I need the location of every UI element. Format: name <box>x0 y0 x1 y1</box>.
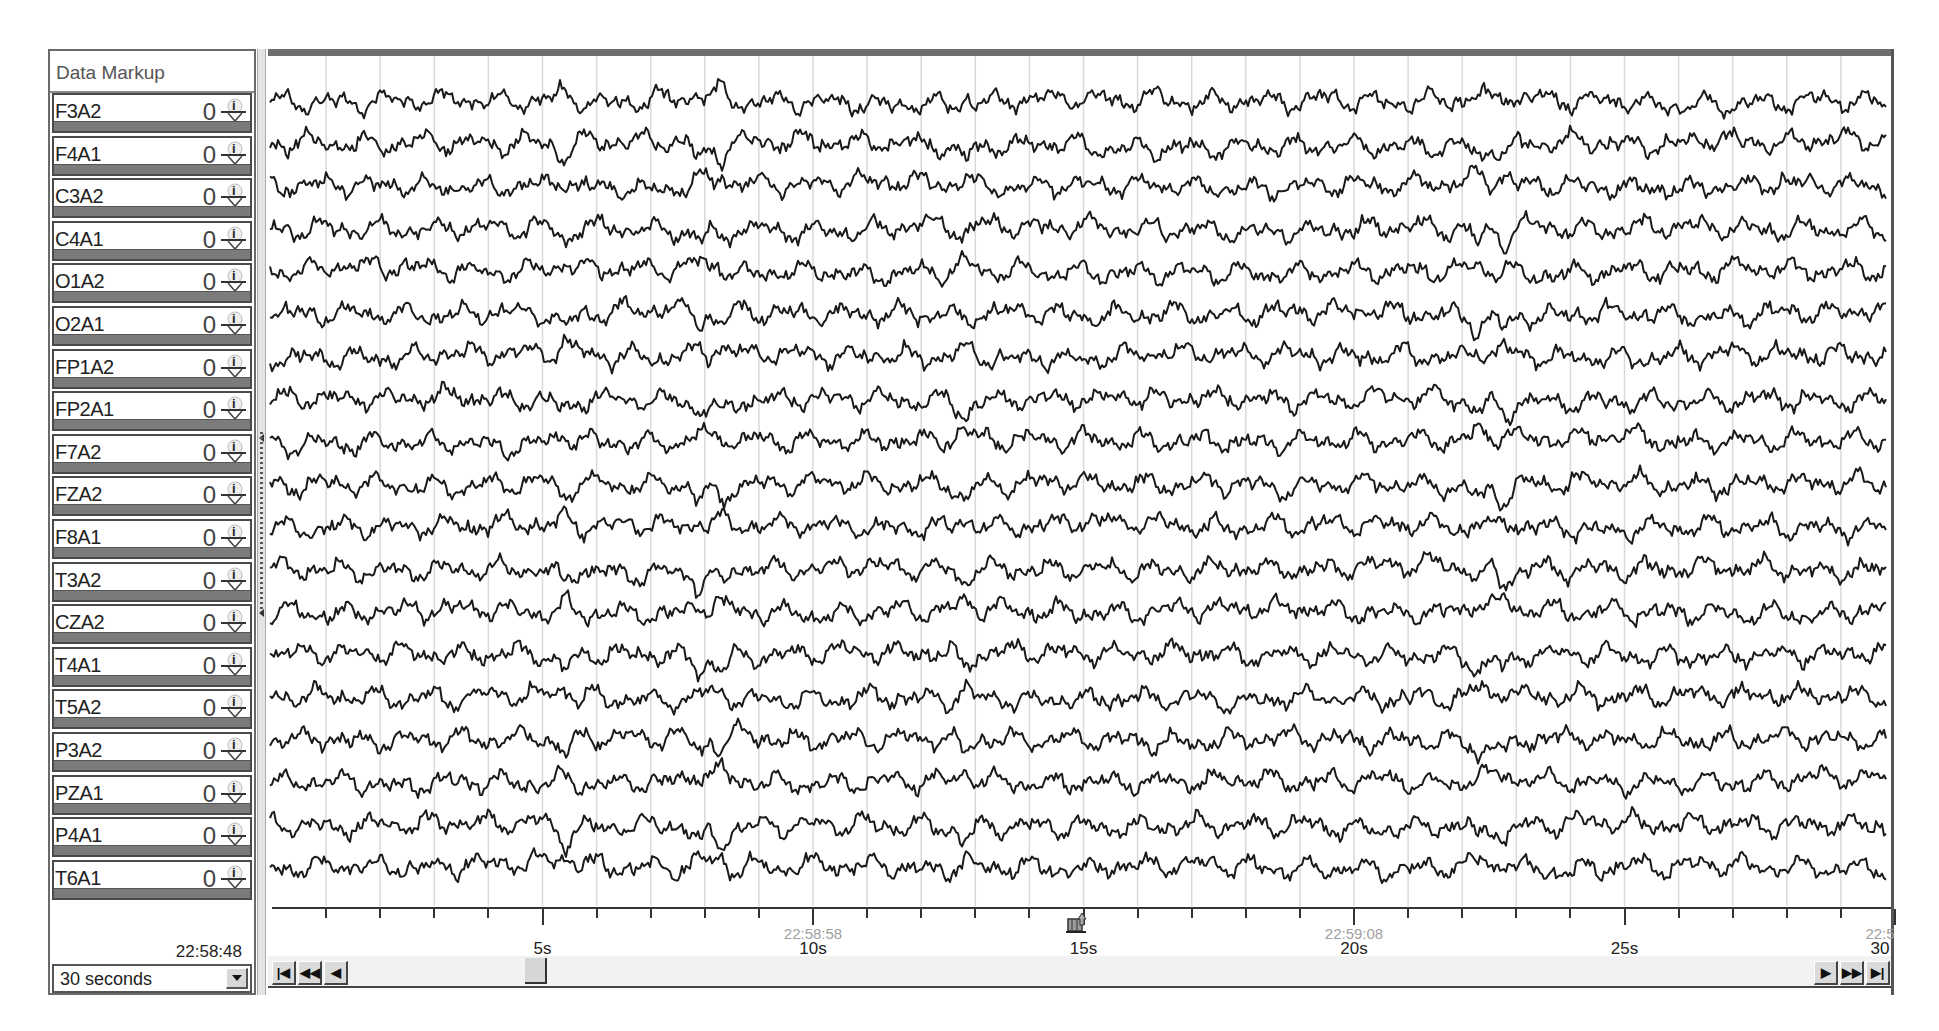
channel-row[interactable]: P4A10i <box>52 817 252 857</box>
channel-row[interactable]: F4A10i <box>52 136 252 176</box>
eeg-trace-fza2 <box>270 465 1886 510</box>
axis-tick <box>1137 909 1139 918</box>
info-marker-icon[interactable]: i <box>218 225 248 251</box>
axis-tick <box>704 909 706 918</box>
channel-row[interactable]: T3A20i <box>52 562 252 602</box>
channel-level-bar <box>54 334 250 344</box>
channel-row[interactable]: C3A20i <box>52 178 252 218</box>
info-marker-icon[interactable]: i <box>218 395 248 421</box>
eeg-trace-f7a2 <box>270 423 1886 461</box>
svg-text:i: i <box>232 567 236 582</box>
axis-tick <box>1245 909 1247 918</box>
axis-tick <box>487 909 489 918</box>
eeg-trace-f8a1 <box>270 506 1886 545</box>
nav-page-forward-button[interactable]: ▶▶ <box>1840 961 1864 985</box>
info-marker-icon[interactable]: i <box>218 140 248 166</box>
channel-row[interactable]: T4A10i <box>52 647 252 687</box>
scrollbar-thumb[interactable] <box>525 958 547 984</box>
axis-tick <box>1732 909 1734 918</box>
channel-row[interactable]: F7A20i <box>52 434 252 474</box>
channel-row[interactable]: F3A20i <box>52 93 252 133</box>
eeg-trace-fp2a1 <box>270 382 1886 426</box>
fast-rewind-icon: ◀◀ <box>300 965 320 980</box>
axis-tick <box>596 909 598 918</box>
channel-label: T6A1 <box>55 867 101 890</box>
time-scrollbar[interactable] <box>268 956 1891 988</box>
nav-page-back-button[interactable]: ◀◀ <box>298 961 322 985</box>
svg-text:i: i <box>232 780 236 795</box>
channel-label: T5A2 <box>55 696 101 719</box>
time-window-value: 30 seconds <box>60 969 152 990</box>
info-marker-icon[interactable]: i <box>218 438 248 464</box>
channel-sidebar: Data Markup F3A20iF4A10iC3A20iC4A10iO1A2… <box>48 49 256 995</box>
channel-row[interactable]: T6A10i <box>52 860 252 900</box>
channel-row[interactable]: O2A10i <box>52 306 252 346</box>
info-marker-icon[interactable]: i <box>218 864 248 890</box>
axis-tick <box>1569 909 1571 918</box>
info-marker-icon[interactable]: i <box>218 97 248 123</box>
channel-row[interactable]: FZA20i <box>52 476 252 516</box>
svg-text:i: i <box>232 737 236 752</box>
channel-row[interactable]: FP2A10i <box>52 391 252 431</box>
skip-to-start-icon: |◀ <box>277 965 291 980</box>
channel-level-bar <box>54 760 250 770</box>
svg-text:i: i <box>232 354 236 369</box>
channel-row[interactable]: P3A20i <box>52 732 252 772</box>
channel-label: P4A1 <box>55 824 102 847</box>
channel-level-bar <box>54 164 250 174</box>
info-marker-icon[interactable]: i <box>218 353 248 379</box>
channel-label: T3A2 <box>55 569 101 592</box>
nav-first-button[interactable]: |◀ <box>272 961 296 985</box>
info-marker-icon[interactable]: i <box>218 523 248 549</box>
info-marker-icon[interactable]: i <box>218 736 248 762</box>
channel-row[interactable]: FP1A20i <box>52 349 252 389</box>
info-marker-icon[interactable]: i <box>218 310 248 336</box>
info-marker-icon[interactable]: i <box>218 566 248 592</box>
channel-level-bar <box>54 717 250 727</box>
time-window-select[interactable]: 30 seconds <box>52 964 252 993</box>
channel-row[interactable]: CZA20i <box>52 604 252 644</box>
channel-row[interactable]: T5A20i <box>52 689 252 729</box>
chevron-down-icon[interactable] <box>226 968 248 989</box>
svg-text:i: i <box>232 268 236 283</box>
eeg-trace-cza2 <box>270 590 1886 627</box>
svg-text:i: i <box>232 226 236 241</box>
collapse-left-arrow-icon[interactable] <box>259 609 264 617</box>
info-marker-icon[interactable]: i <box>218 693 248 719</box>
time-axis <box>272 907 1891 909</box>
nav-last-button[interactable]: ▶| <box>1866 961 1890 985</box>
info-marker-icon[interactable]: i <box>218 779 248 805</box>
svg-text:i: i <box>232 439 236 454</box>
splitter-grip[interactable] <box>260 432 263 612</box>
eeg-trace-c4a1 <box>270 211 1886 254</box>
svg-text:i: i <box>232 694 236 709</box>
eeg-plot-area[interactable]: 5s22:58:5810s15s22:59:0820s25s22:530 |◀ … <box>268 49 1894 995</box>
eeg-trace-f3a2 <box>270 79 1886 119</box>
channel-level-bar <box>54 121 250 131</box>
svg-text:i: i <box>232 822 236 837</box>
channel-row[interactable]: F8A10i <box>52 519 252 559</box>
nav-step-back-button[interactable]: ◀ <box>324 961 348 985</box>
event-marker-icon[interactable] <box>1066 911 1088 933</box>
panel-splitter[interactable] <box>257 49 266 995</box>
info-marker-icon[interactable]: i <box>218 182 248 208</box>
info-marker-icon[interactable]: i <box>218 480 248 506</box>
info-marker-icon[interactable]: i <box>218 821 248 847</box>
channel-level-bar <box>54 803 250 813</box>
svg-text:i: i <box>232 865 236 880</box>
axis-tick <box>812 909 814 925</box>
channel-label: O1A2 <box>55 270 104 293</box>
eeg-traces[interactable] <box>268 56 1891 906</box>
channel-label: F4A1 <box>55 143 101 166</box>
axis-tick <box>650 909 652 918</box>
channel-row[interactable]: O1A20i <box>52 263 252 303</box>
channel-label: P3A2 <box>55 739 102 762</box>
nav-step-forward-button[interactable]: ▶ <box>1814 961 1838 985</box>
channel-row[interactable]: C4A10i <box>52 221 252 261</box>
axis-tick <box>974 909 976 918</box>
info-marker-icon[interactable]: i <box>218 608 248 634</box>
info-marker-icon[interactable]: i <box>218 651 248 677</box>
channel-row[interactable]: PZA10i <box>52 775 252 815</box>
axis-tick <box>1678 909 1680 918</box>
info-marker-icon[interactable]: i <box>218 267 248 293</box>
